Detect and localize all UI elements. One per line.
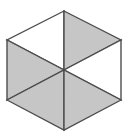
- hexagon-figure: [0, 0, 129, 140]
